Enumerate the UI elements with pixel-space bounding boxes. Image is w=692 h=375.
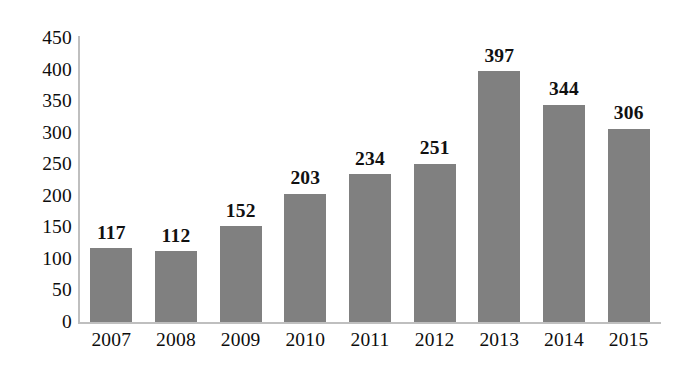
bar-group: 344: [532, 30, 597, 322]
y-axis-tick-label: 100: [0, 249, 72, 269]
x-axis-tick-label: 2011: [338, 329, 403, 350]
bar-value-label: 251: [420, 138, 450, 158]
bar-value-label: 397: [484, 46, 514, 66]
bar-group: 234: [338, 30, 403, 322]
x-axis-tick-label: 2015: [596, 329, 661, 350]
bar-chart: 450400350300250200150100500 117112152203…: [0, 0, 692, 375]
bar[interactable]: [543, 105, 585, 322]
bar-value-label: 306: [614, 103, 644, 123]
y-axis-tick-label: 400: [0, 60, 72, 80]
x-axis-tick-label: 2009: [208, 329, 273, 350]
y-axis-tick-labels: 450400350300250200150100500: [0, 0, 72, 375]
bar-value-label: 152: [226, 201, 256, 221]
x-axis-tick-label: 2007: [79, 329, 144, 350]
y-axis-tick-label: 50: [0, 280, 72, 300]
x-axis-tick-label: 2012: [402, 329, 467, 350]
bar[interactable]: [608, 129, 650, 322]
x-axis-tick-label: 2010: [273, 329, 338, 350]
bar-value-label: 112: [162, 226, 191, 246]
y-axis-tick-label: 200: [0, 186, 72, 206]
y-axis-tick-label: 350: [0, 91, 72, 111]
bar[interactable]: [155, 251, 197, 322]
x-axis-tick-label: 2008: [144, 329, 209, 350]
plot-area: 117112152203234251397344306: [79, 30, 661, 322]
y-axis-tick-label: 450: [0, 28, 72, 48]
bar[interactable]: [90, 248, 132, 322]
bar-group: 112: [144, 30, 209, 322]
y-axis-tick-label: 0: [0, 312, 72, 332]
bar[interactable]: [478, 71, 520, 322]
y-axis-tick-label: 150: [0, 217, 72, 237]
bar[interactable]: [284, 194, 326, 322]
bar-group: 152: [208, 30, 273, 322]
bar-value-label: 117: [97, 223, 126, 243]
bar[interactable]: [220, 226, 262, 322]
bar[interactable]: [349, 174, 391, 322]
bar-group: 117: [79, 30, 144, 322]
bar-value-label: 234: [355, 149, 385, 169]
x-axis-tick-label: 2014: [532, 329, 597, 350]
y-axis-tick-label: 300: [0, 123, 72, 143]
bar-value-label: 203: [290, 168, 320, 188]
x-axis-tick-labels: 200720082009201020112012201320142015: [79, 329, 661, 359]
bar-group: 397: [467, 30, 532, 322]
x-axis-line: [78, 322, 661, 324]
bar-group: 306: [596, 30, 661, 322]
x-axis-tick-label: 2013: [467, 329, 532, 350]
bar[interactable]: [414, 164, 456, 322]
bar-value-label: 344: [549, 79, 579, 99]
bar-group: 203: [273, 30, 338, 322]
bar-group: 251: [402, 30, 467, 322]
y-axis-tick-label: 250: [0, 154, 72, 174]
